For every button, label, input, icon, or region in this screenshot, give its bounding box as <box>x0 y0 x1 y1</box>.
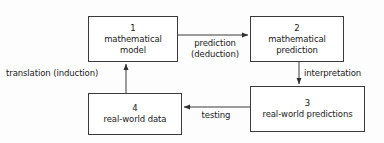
node-number: 3 <box>305 98 311 109</box>
edge-label-interpretation: interpretation <box>304 68 384 79</box>
node-real-world-data[interactable]: 4 real-world data <box>88 93 182 135</box>
node-real-world-predictions[interactable]: 3 real-world predictions <box>250 86 365 132</box>
edge-label-testing: testing <box>186 110 246 121</box>
node-label: real-world data <box>101 114 170 125</box>
node-number: 2 <box>294 23 300 34</box>
edge-label-translation: translation (induction) <box>6 68 124 79</box>
node-label: real-world predictions <box>259 109 355 120</box>
node-mathematical-prediction[interactable]: 2 mathematical prediction <box>250 16 344 62</box>
node-label: mathematical model <box>101 34 165 56</box>
modelling-cycle-diagram: 1 mathematical model 2 mathematical pred… <box>0 0 384 143</box>
node-mathematical-model[interactable]: 1 mathematical model <box>88 16 178 62</box>
edge-label-prediction: prediction (deduction) <box>182 38 248 60</box>
node-number: 4 <box>132 103 138 114</box>
node-number: 1 <box>130 23 136 34</box>
node-label: mathematical prediction <box>265 34 329 56</box>
